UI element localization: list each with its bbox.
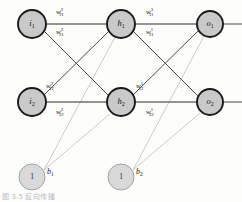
node-bias2[interactable]: 1 <box>108 164 134 190</box>
network-canvas: i1i2h1h2o1o211 w211w221w212w222w311w121w… <box>0 0 242 202</box>
weight-label-w1_12: w112 <box>136 81 144 91</box>
weight-label-w2_22: w222 <box>56 107 64 117</box>
output-stub-group <box>223 24 242 102</box>
node-label-bias1: 1 <box>30 171 34 181</box>
node-bias1[interactable]: 1 <box>19 164 45 190</box>
node-h1[interactable]: h1 <box>107 10 135 38</box>
node-i1[interactable]: i1 <box>18 10 46 38</box>
weight-label-w2_11: w211 <box>56 7 64 17</box>
node-h2[interactable]: h2 <box>107 88 135 116</box>
bias-label-bias1: b1 <box>47 167 54 177</box>
bias-label-bias2: b2 <box>136 167 143 177</box>
bias-edge-b1-h2 <box>44 114 110 170</box>
node-label-bias2: 1 <box>119 171 123 181</box>
node-i2[interactable]: i2 <box>18 88 46 116</box>
weight-label-w1_21: w121 <box>146 27 154 37</box>
weight-label-w2_21: w221 <box>56 27 64 37</box>
node-o2[interactable]: o2 <box>197 89 223 115</box>
bias-edge-b1-h1 <box>44 37 115 170</box>
neural-network-diagram: i1i2h1h2o1o211 w211w221w212w222w311w121w… <box>0 0 242 202</box>
figure-caption: 图 3-5 反向传播 <box>0 192 242 202</box>
cross-edge-group <box>44 31 198 96</box>
weight-label-w3_11: w311 <box>146 7 154 17</box>
weight-label-w2_12: w212 <box>46 81 54 91</box>
weight-label-w1_22: w122 <box>146 107 154 117</box>
bias-edge-b2-o2 <box>133 113 200 170</box>
node-o1[interactable]: o1 <box>197 11 223 37</box>
bias-edge-b2-o1 <box>133 36 204 170</box>
